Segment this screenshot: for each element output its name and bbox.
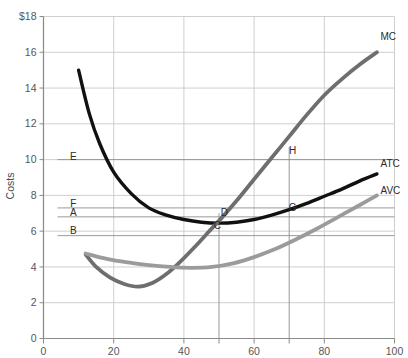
x-tick-label: 100: [386, 345, 404, 357]
x-tick-label: 40: [178, 345, 190, 357]
y-tick-label: 4: [31, 261, 37, 273]
point-label-c: C: [214, 220, 221, 231]
point-label-g: G: [289, 202, 297, 213]
y-tick-label: 2: [31, 296, 37, 308]
x-tick-label: 60: [248, 345, 260, 357]
x-tick-label: 80: [318, 345, 330, 357]
curve-label-atc: ATC: [380, 158, 399, 169]
x-tick-label: 20: [108, 345, 120, 357]
point-label-e: E: [70, 151, 77, 162]
point-label-d: D: [221, 207, 228, 218]
y-tick-label: 14: [25, 82, 37, 94]
y-tick-label: 8: [31, 189, 37, 201]
point-label-b: B: [70, 225, 77, 236]
point-label-a: A: [70, 207, 77, 218]
point-label-h: H: [289, 145, 296, 156]
y-tick-label: 6: [31, 225, 37, 237]
chart-canvas: $181614121086420020406080100CostsEFABCDG…: [0, 0, 408, 358]
curve-label-avc: AVC: [380, 185, 400, 196]
y-tick-label: 16: [25, 46, 37, 58]
y-tick-label: $18: [19, 10, 37, 22]
curve-label-mc: MC: [380, 31, 396, 42]
chart-background: [0, 0, 408, 358]
y-tick-label: 0: [31, 332, 37, 344]
x-tick-label: 0: [41, 345, 47, 357]
cost-curves-chart: $181614121086420020406080100CostsEFABCDG…: [0, 0, 408, 358]
y-tick-label: 10: [25, 153, 37, 165]
y-axis-title: Costs: [4, 173, 16, 200]
y-tick-label: 12: [25, 117, 37, 129]
